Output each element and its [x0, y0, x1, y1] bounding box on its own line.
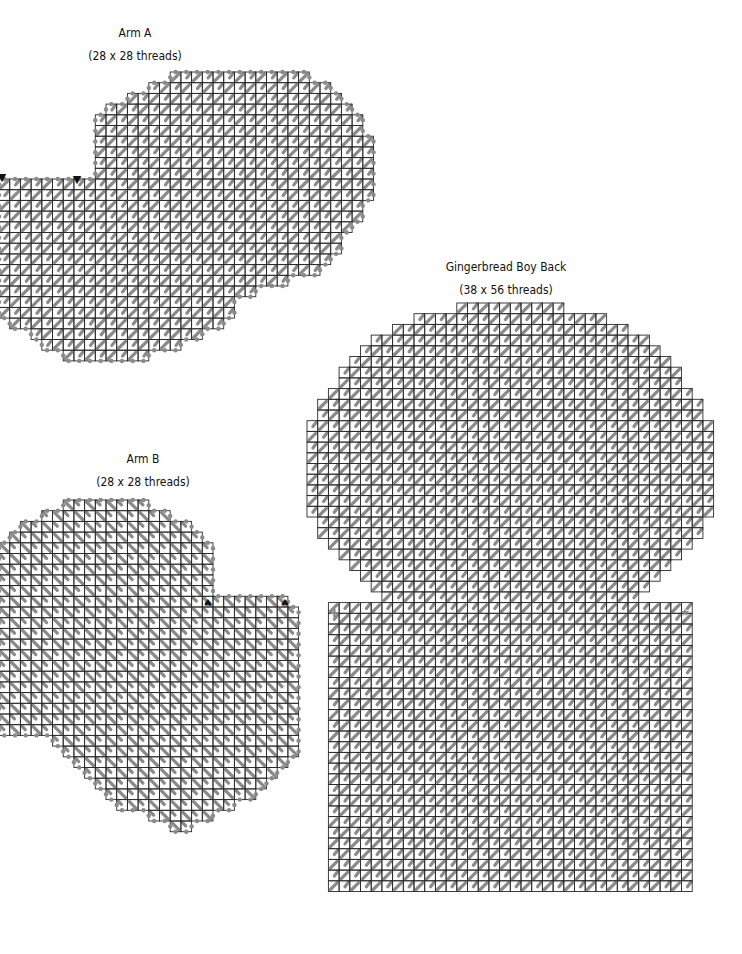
arm-b-title: Arm B	[68, 452, 218, 466]
stitches	[309, 304, 713, 890]
grid-lines	[0, 500, 299, 832]
gingerbread-size: (38 x 56 threads)	[406, 283, 606, 297]
arm-a-title: Arm A	[60, 26, 210, 40]
spade-marker: ♠	[203, 597, 213, 610]
stitches	[1, 73, 373, 359]
spade-marker: ♠	[280, 597, 290, 610]
star-marker: ★	[680, 606, 690, 619]
arm-a-chart: ▼▼	[0, 70, 376, 363]
stitches	[0, 501, 297, 830]
triangle-marker: ▼	[73, 173, 82, 186]
triangle-marker: ▼	[0, 171, 7, 184]
arm-a-size: (28 x 28 threads)	[60, 49, 210, 63]
gingerbread-title: Gingerbread Boy Back	[406, 260, 606, 274]
gingerbread-boy-back-chart: ✚★	[307, 303, 714, 892]
arm-b-chart: ♠♠	[0, 498, 301, 834]
arm-b-size: (28 x 28 threads)	[68, 475, 218, 489]
arm-b-label: Arm B (28 x 28 threads)	[68, 452, 218, 489]
arm-a-label: Arm A (28 x 28 threads)	[60, 26, 210, 63]
cross-marker: ✚	[329, 607, 338, 620]
gingerbread-label: Gingerbread Boy Back (38 x 56 threads)	[406, 260, 606, 297]
